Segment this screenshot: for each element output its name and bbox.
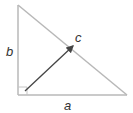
label-c: c xyxy=(75,30,82,45)
label-b: b xyxy=(6,44,13,59)
vector-c-arrow xyxy=(25,46,73,91)
right-triangle-diagram: b a c xyxy=(0,0,133,113)
label-a: a xyxy=(64,98,71,113)
